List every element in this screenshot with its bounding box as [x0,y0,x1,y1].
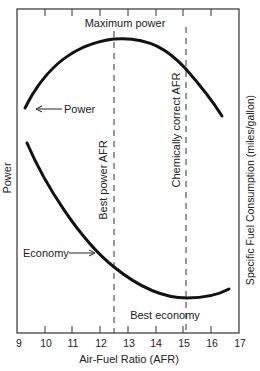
x-axis-top-ticks [45,9,211,16]
tick-label: 9 [16,337,22,349]
tick-label: 11 [68,337,79,349]
tick-label: 17 [234,337,246,349]
afr-chart: 9 10 11 12 13 14 15 16 17 Air-Fuel Ratio… [0,0,260,371]
tick-label: 15 [178,337,190,349]
power-curve-label: Power [64,103,96,115]
tick-label: 10 [40,337,52,349]
economy-curve-label: Economy [23,247,69,259]
economy-curve [27,143,229,298]
best-economy-label: Best economy [130,309,200,321]
maximum-power-label: Maximum power [85,17,166,29]
y-axis-right-label: Specific Fuel Consumption (miles/gallon) [244,95,256,285]
power-curve-annotation: Power [36,103,96,115]
x-tick-labels: 9 10 11 12 13 14 15 16 17 [16,337,246,349]
y-axis-left-label: Power [1,162,13,194]
economy-curve-annotation: Economy [23,247,95,259]
x-axis-label: Air-Fuel Ratio (AFR) [79,353,179,365]
tick-label: 12 [95,337,107,349]
plot-frame [17,9,239,333]
tick-label: 14 [150,337,162,349]
best-power-afr-label: Best power AFR [97,140,109,220]
tick-label: 13 [123,337,135,349]
chemically-correct-afr-label: Chemically correct AFR [170,72,182,187]
tick-label: 16 [206,337,218,349]
power-curve [25,39,222,116]
